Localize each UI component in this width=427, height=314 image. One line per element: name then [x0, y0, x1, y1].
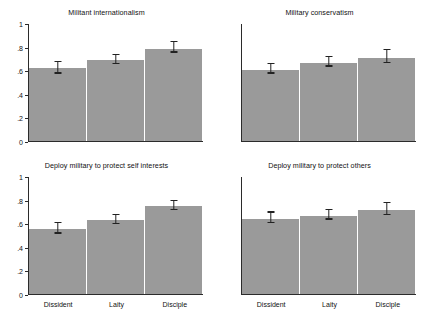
bar-group [242, 177, 416, 294]
bar [29, 229, 87, 294]
error-bar-cap [384, 62, 391, 63]
y-tick-label: .4 [17, 244, 23, 251]
bar-group [242, 24, 416, 141]
y-tick-label: .6 [17, 68, 23, 75]
figure-canvas: Militant internationalism 1 .8 .6 .4 .2 … [0, 0, 427, 314]
error-bar-cap [384, 214, 391, 215]
y-tick-label: 0 [19, 139, 23, 146]
bar [300, 216, 358, 294]
bar [145, 206, 203, 294]
panel-title: Military conservatism [213, 8, 426, 17]
error-bar-cap [384, 202, 391, 203]
error-bar-cap [326, 65, 333, 66]
error-bar-cap [113, 223, 120, 224]
error-bar-cap [326, 56, 333, 57]
y-tick-label: 0 [19, 292, 23, 299]
panel-title: Militant internationalism [0, 8, 213, 17]
error-bar-cap [55, 72, 62, 73]
error-bar-cap [268, 63, 275, 64]
error-bar-cap [113, 54, 120, 55]
x-tick-label-laity: Laity [322, 301, 337, 309]
y-tick-label: 1 [19, 174, 23, 181]
error-bar-cap [268, 222, 275, 223]
panel-title: Deploy military to protect self interest… [0, 161, 213, 170]
y-tick-label: .4 [17, 91, 23, 98]
y-tick-label: 1 [19, 21, 23, 28]
error-bar-cap [326, 209, 333, 210]
plot-area [241, 24, 416, 142]
x-axis-labels: Dissident Laity Disciple [242, 301, 417, 313]
bar [242, 219, 300, 294]
plot-area: 1 .8 .6 .4 .2 0 [28, 177, 203, 295]
bar [358, 210, 416, 294]
plot-area [241, 177, 416, 295]
panel-deploy-military-protect-others: Deploy military to protect others Dissid… [213, 157, 426, 314]
y-tick-label: .8 [17, 44, 23, 51]
x-tick-label-dissident: Dissident [44, 301, 73, 309]
error-bar-cap [55, 232, 62, 233]
error-bar-cap [171, 41, 178, 42]
bar [87, 220, 145, 294]
panel-title: Deploy military to protect others [213, 161, 426, 170]
x-tick-label-disciple: Disciple [376, 301, 401, 309]
y-tick-label: .6 [17, 221, 23, 228]
error-bar-cap [113, 63, 120, 64]
error-bar-cap [171, 200, 178, 201]
error-bar-cap [55, 222, 62, 223]
error-bar-cap [384, 49, 391, 50]
bar [300, 63, 358, 141]
x-axis-line [241, 294, 416, 295]
x-axis-labels: Dissident Laity Disciple [29, 301, 204, 313]
error-bar-cap [268, 211, 275, 212]
bar [87, 60, 145, 141]
y-tick-label: .2 [17, 268, 23, 275]
x-tick-label-dissident: Dissident [257, 301, 286, 309]
y-tick-label: .8 [17, 197, 23, 204]
panel-deploy-military-self-interests: Deploy military to protect self interest… [0, 157, 213, 314]
error-bar-cap [171, 209, 178, 210]
plot-area: 1 .8 .6 .4 .2 0 [28, 24, 203, 142]
bar [242, 70, 300, 141]
x-tick-label-disciple: Disciple [163, 301, 188, 309]
bar-group [29, 24, 203, 141]
error-bar-cap [55, 61, 62, 62]
x-axis-line [28, 141, 203, 142]
x-axis-line [241, 141, 416, 142]
bar-group [29, 177, 203, 294]
bar [358, 58, 416, 141]
x-tick-label-laity: Laity [109, 301, 124, 309]
error-bar-cap [113, 214, 120, 215]
x-axis-line [28, 294, 203, 295]
bar [29, 68, 87, 141]
y-tick-label: .2 [17, 115, 23, 122]
error-bar-cap [268, 72, 275, 73]
panel-militant-internationalism: Militant internationalism 1 .8 .6 .4 .2 … [0, 0, 213, 157]
bar [145, 49, 203, 141]
panel-military-conservatism: Military conservatism [213, 0, 426, 157]
error-bar-cap [326, 218, 333, 219]
error-bar-cap [171, 51, 178, 52]
